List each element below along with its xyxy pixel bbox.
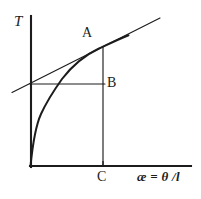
- point-label-b: B: [107, 76, 116, 90]
- y-axis-label: T: [14, 14, 22, 29]
- point-label-c: C: [97, 170, 106, 184]
- torque-twist-curve: [31, 35, 129, 166]
- x-axis-label: æ = θ /l: [137, 170, 180, 183]
- point-label-a: A: [82, 26, 92, 40]
- torsion-diagram-figure: T A B C æ = θ /l: [0, 0, 201, 199]
